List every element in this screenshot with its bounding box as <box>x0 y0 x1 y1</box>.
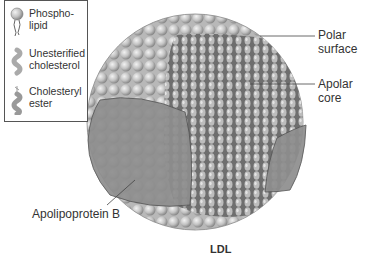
polar-surface-label: Polar surface <box>318 28 357 56</box>
apolipoprotein-b-label: Apolipoprotein B <box>32 207 120 221</box>
unesterified-cholesterol-icon <box>9 47 25 77</box>
apolipoprotein-b-left <box>88 98 192 207</box>
apolar-core-label: Apolar core <box>318 77 353 105</box>
legend-item-unesterified-cholesterol: Unesterified cholesterol <box>9 47 85 77</box>
legend-item-cholesteryl-ester: Cholesteryl ester <box>9 85 82 115</box>
phospholipid-icon <box>9 7 25 37</box>
lipoprotein-sphere <box>87 14 306 230</box>
legend-item-phospholipid: Phospho- lipid <box>9 7 74 37</box>
legend: Phospho- lipid Unesterified cholesterol … <box>4 0 88 122</box>
figure-title: LDL <box>210 243 231 255</box>
cholesteryl-ester-icon <box>9 85 25 115</box>
